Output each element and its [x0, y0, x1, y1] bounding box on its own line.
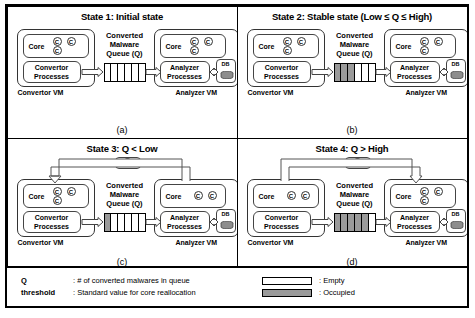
- legend-value-q: : # of converted malwares in queue: [73, 275, 190, 287]
- legend-value-threshold: : Standard value for core reallocation: [73, 287, 196, 299]
- legend-swatches: : Empty : Occupied: [262, 275, 355, 299]
- swatch-empty: [262, 277, 312, 285]
- state-panel-state-4: State 4: Q > HighConvertor VMCoreCCConve…: [237, 138, 468, 271]
- legend-swatch-row-empty: : Empty: [262, 275, 355, 287]
- state-panel-grid: State 1: Initial stateConvertor VMCoreCC…: [7, 6, 467, 270]
- core-reallocation-arrow-to-analyzer: [238, 139, 467, 270]
- panel-letter: (d): [238, 257, 467, 267]
- state-transition-figure: State 1: Initial stateConvertor VMCoreCC…: [0, 0, 475, 318]
- panel-letter: (a): [8, 125, 237, 135]
- core-reallocation-arrow-to-convertor: [8, 139, 237, 270]
- panel-letter: (b): [238, 125, 467, 135]
- swatch-label-occupied: : Occupied: [319, 287, 355, 299]
- state-panel-state-1: State 1: Initial stateConvertor VMCoreCC…: [7, 6, 238, 139]
- legend: Q : # of converted malwares in queue thr…: [7, 266, 467, 306]
- legend-swatch-row-occupied: : Occupied: [262, 287, 355, 299]
- swatch-occupied: [262, 289, 312, 297]
- panel-letter: (c): [8, 257, 237, 267]
- legend-definitions: Q : # of converted malwares in queue thr…: [21, 275, 196, 299]
- swatch-label-empty: : Empty: [319, 275, 344, 287]
- legend-key-q: Q: [21, 275, 73, 287]
- legend-definition-row: Q : # of converted malwares in queue: [21, 275, 196, 287]
- arrow-analyzer-db: [8, 7, 237, 138]
- state-panel-state-2: State 2: Stable state (Low ≤ Q ≤ High)Co…: [237, 6, 468, 139]
- state-panel-state-3: State 3: Q < LowConvertor VMCoreCCCConve…: [7, 138, 238, 271]
- arrow-analyzer-db: [238, 7, 467, 138]
- legend-definition-row: threshold : Standard value for core real…: [21, 287, 196, 299]
- figure-frame: State 1: Initial stateConvertor VMCoreCC…: [5, 4, 469, 308]
- legend-key-threshold: threshold: [21, 287, 73, 299]
